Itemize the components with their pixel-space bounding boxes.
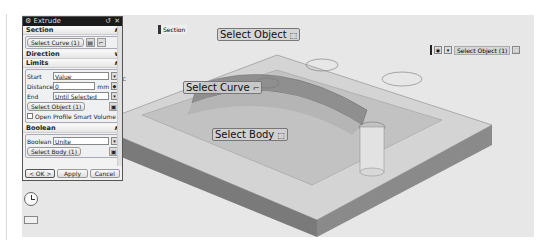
select-object-button[interactable]: Select Object (1) xyxy=(27,102,85,111)
resource-bar xyxy=(24,192,38,224)
object-pick-icon[interactable]: ⬚ xyxy=(512,46,520,54)
select-object-toolbar-text[interactable]: Select Object (1) xyxy=(454,46,510,55)
dialog-title: Extrude xyxy=(34,17,61,25)
distance-input[interactable]: 0 xyxy=(53,82,95,90)
mini-tool-icon[interactable] xyxy=(24,216,38,224)
select-body-button[interactable]: Select Body (1) xyxy=(27,147,81,156)
dialog-footer: < OK > Apply Cancel xyxy=(25,169,120,178)
boolean-group-header[interactable]: Boolean∧ xyxy=(23,124,122,133)
close-icon[interactable]: ✕ xyxy=(114,17,120,26)
select-body-text: Select Body xyxy=(215,129,274,140)
select-body-label[interactable]: Select Body ⬚ xyxy=(212,128,288,141)
boolean-header-text: Boolean xyxy=(26,124,56,132)
reset-icon[interactable]: ↺ xyxy=(105,17,111,26)
direction-header-text: Direction xyxy=(26,50,60,58)
sketch-icon[interactable]: ▤ xyxy=(86,38,95,47)
section-group-header[interactable]: Section∧ xyxy=(23,26,122,35)
cancel-button[interactable]: Cancel xyxy=(90,169,120,178)
start-label: Start xyxy=(27,73,51,80)
open-profile-label: Open Profile Smart Volume xyxy=(35,113,116,120)
limits-group: StartValue▾ Distance0mm◆ EndUntil Select… xyxy=(25,69,120,123)
ok-button[interactable]: < OK > xyxy=(25,169,55,178)
boolean-group: BooleanUnite▾ Select Body (1)▣ xyxy=(25,134,120,158)
extrude-dialog: ⚙ Extrude ↺✕ Section∧ Select Curve (1) ▤… xyxy=(22,16,123,181)
select-curve-button[interactable]: Select Curve (1) xyxy=(27,38,84,47)
section-group: Select Curve (1) ▤ ⌐ xyxy=(25,36,120,49)
gear-icon: ⚙ xyxy=(25,17,31,25)
apply-button[interactable]: Apply xyxy=(57,169,87,178)
section-tag[interactable]: Section xyxy=(158,25,187,34)
object-type-icon[interactable]: ◉ xyxy=(434,46,442,54)
dialog-title-bar: ⚙ Extrude ↺✕ xyxy=(23,17,122,26)
select-object-text: Select Object xyxy=(220,29,287,40)
end-select[interactable]: Until Selected xyxy=(53,92,109,100)
select-curve-label[interactable]: Select Curve ⌐ xyxy=(183,81,262,94)
open-profile-checkbox[interactable] xyxy=(27,113,33,119)
boolean-label: Boolean xyxy=(27,138,51,145)
body-cursor-icon: ⬚ xyxy=(277,131,285,140)
dialog-scrollbar[interactable] xyxy=(117,26,122,166)
dropdown-icon[interactable]: ▾ xyxy=(444,46,452,54)
curve-icon[interactable]: ⌐ xyxy=(97,38,106,47)
curve-cursor-icon: ⌐ xyxy=(253,84,260,93)
object-toolbar[interactable]: ◉ ▾ Select Object (1) ⬚ xyxy=(430,45,520,55)
unit-label: mm xyxy=(97,83,109,90)
toolbar-grip[interactable] xyxy=(430,45,432,55)
section-header-text: Section xyxy=(26,26,53,34)
boolean-select[interactable]: Unite xyxy=(53,137,109,145)
limits-group-header[interactable]: Limits∧ xyxy=(23,59,122,68)
cursor-icon: ⬚ xyxy=(290,31,298,40)
limits-header-text: Limits xyxy=(26,59,48,67)
start-select[interactable]: Value xyxy=(53,72,109,80)
history-clock-icon[interactable] xyxy=(24,192,38,206)
select-object-label[interactable]: Select Object ⬚ xyxy=(217,28,300,41)
distance-label: Distance xyxy=(27,83,51,90)
end-label: End xyxy=(27,93,51,100)
select-curve-text: Select Curve xyxy=(186,82,250,93)
direction-group-header[interactable]: Direction∨ xyxy=(23,50,122,59)
